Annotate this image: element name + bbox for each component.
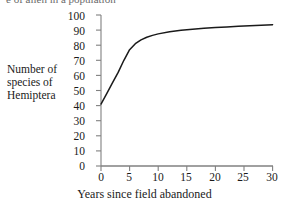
data-curve: [101, 25, 273, 104]
y-tick-marks: [96, 15, 101, 166]
chart-figure: Number of species of Hemiptera 100 90 80…: [0, 0, 289, 209]
x-tick-marks: [101, 166, 273, 171]
x-axis-label: Years since field abandoned: [0, 187, 289, 202]
plot-area: [0, 0, 289, 209]
